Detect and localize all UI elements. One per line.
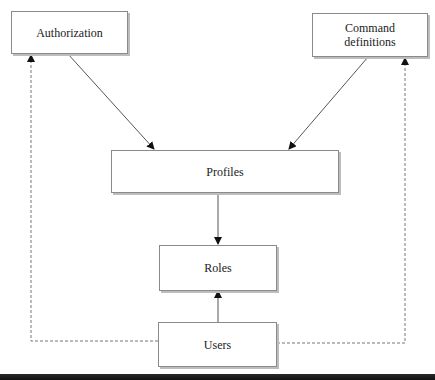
edge-commands-to-profiles [289,57,368,149]
node-command-definitions-line1: Command [345,21,395,35]
node-users-label: Users [204,338,231,352]
node-authorization-label: Authorization [36,26,103,40]
node-command-definitions-line2: definitions [344,35,395,49]
node-authorization: Authorization [11,11,128,54]
bottom-border-bar [0,374,435,380]
node-roles-label: Roles [204,261,231,275]
node-profiles: Profiles [111,150,339,193]
node-command-definitions: Command definitions [312,13,428,57]
edge-users-to-commands-dashed [277,58,405,343]
node-profiles-label: Profiles [206,165,243,179]
edge-authorization-to-profiles [68,54,154,149]
node-users: Users [158,322,277,367]
edge-users-to-authorization-dashed [31,55,158,341]
node-roles: Roles [159,245,277,291]
